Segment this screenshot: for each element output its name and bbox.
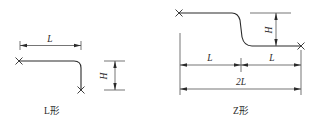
z-shape-caption: Z形 [233, 105, 249, 116]
l-shape-height-dimension: H [99, 61, 125, 90]
arrowhead [241, 63, 248, 66]
length-right-label: L [268, 53, 274, 63]
height-label: H [264, 25, 274, 34]
z-shape-figure: H L L 2L Z形 [176, 10, 305, 117]
total-length-label: 2L [236, 77, 246, 87]
arrowhead-right [74, 44, 81, 47]
z-shape-total-length-dimension: 2L [180, 77, 301, 91]
z-shape-height-dimension: H [250, 13, 291, 46]
arrowhead-left [180, 87, 187, 90]
z-shape-half-length-dimensions: L L [180, 53, 301, 67]
arrowhead-right [294, 87, 301, 90]
arrowhead [294, 63, 301, 66]
arrowhead-top [274, 13, 277, 20]
length-label: L [46, 34, 52, 44]
arrowhead-bottom [274, 39, 277, 46]
pipe-bend-diagram: L H L形 [0, 0, 316, 124]
length-left-label: L [206, 53, 212, 63]
arrowhead [234, 63, 241, 66]
l-shape-length-dimension: L [20, 34, 81, 50]
l-shape-caption: L形 [44, 105, 60, 116]
l-shape-figure: L H L形 [16, 34, 126, 116]
arrowhead [180, 63, 187, 66]
arrowhead-bottom [113, 83, 116, 90]
arrowhead-top [113, 61, 116, 68]
l-shape-pipe [19, 61, 81, 90]
z-shape-pipe [179, 13, 301, 46]
height-label: H [99, 71, 109, 80]
arrowhead-left [20, 44, 27, 47]
